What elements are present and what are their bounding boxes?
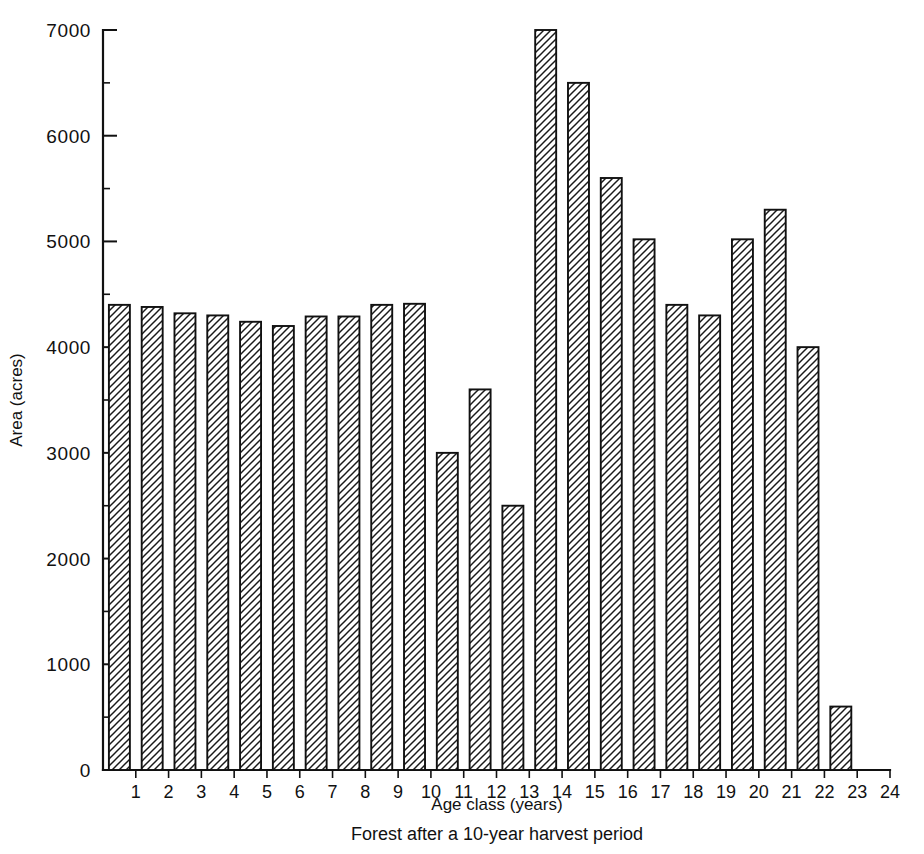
bar bbox=[240, 322, 261, 770]
x-tick-label: 4 bbox=[229, 782, 239, 802]
bar bbox=[273, 326, 294, 770]
bar bbox=[306, 316, 327, 770]
x-tick-label: 9 bbox=[393, 782, 403, 802]
bar bbox=[109, 305, 130, 770]
bar-rect bbox=[601, 178, 622, 770]
bar-rect bbox=[666, 305, 687, 770]
bar bbox=[666, 305, 687, 770]
bar-rect bbox=[174, 313, 195, 770]
bar bbox=[601, 178, 622, 770]
bar-rect bbox=[732, 239, 753, 770]
x-tick-label: 7 bbox=[328, 782, 338, 802]
bar bbox=[502, 506, 523, 770]
x-tick-label: 18 bbox=[683, 782, 703, 802]
bar bbox=[798, 347, 819, 770]
x-tick-label: 22 bbox=[814, 782, 834, 802]
x-tick-label: 6 bbox=[295, 782, 305, 802]
bar bbox=[437, 453, 458, 770]
y-tick-label: 6000 bbox=[46, 126, 91, 147]
bar bbox=[732, 239, 753, 770]
bar-rect bbox=[470, 389, 491, 770]
bar-rect bbox=[109, 305, 130, 770]
bar-chart-figure: 01000200030004000500060007000 1234567891… bbox=[0, 0, 924, 854]
y-axis-title: Area (acres) bbox=[7, 353, 26, 447]
x-tick-label: 19 bbox=[716, 782, 736, 802]
x-tick-label: 1 bbox=[131, 782, 141, 802]
bar-rect bbox=[634, 239, 655, 770]
bar-rect bbox=[830, 707, 851, 770]
x-tick-label: 24 bbox=[880, 782, 900, 802]
bar bbox=[371, 305, 392, 770]
x-tick-label: 3 bbox=[196, 782, 206, 802]
y-tick-label: 5000 bbox=[46, 231, 91, 252]
y-tick-label: 7000 bbox=[46, 20, 91, 41]
x-tick-label: 2 bbox=[164, 782, 174, 802]
y-tick-label: 0 bbox=[80, 760, 91, 781]
bar-rect bbox=[371, 305, 392, 770]
y-tick-label: 1000 bbox=[46, 654, 91, 675]
bar bbox=[338, 316, 359, 770]
bar bbox=[207, 315, 228, 770]
bar bbox=[535, 30, 556, 770]
figure-caption: Forest after a 10-year harvest period bbox=[351, 824, 643, 844]
bar bbox=[830, 707, 851, 770]
bar bbox=[404, 304, 425, 770]
bar-rect bbox=[142, 307, 163, 770]
x-tick-label: 23 bbox=[847, 782, 867, 802]
bar-rect bbox=[699, 315, 720, 770]
x-tick-label: 20 bbox=[749, 782, 769, 802]
bar-rect bbox=[568, 83, 589, 770]
bar-rect bbox=[404, 304, 425, 770]
x-tick-label: 16 bbox=[618, 782, 638, 802]
bar-rect bbox=[437, 453, 458, 770]
bar bbox=[470, 389, 491, 770]
bar-rect bbox=[338, 316, 359, 770]
bar bbox=[174, 313, 195, 770]
x-tick-label: 8 bbox=[360, 782, 370, 802]
bar-rect bbox=[765, 210, 786, 770]
chart-canvas: 01000200030004000500060007000 1234567891… bbox=[0, 0, 924, 854]
bar bbox=[699, 315, 720, 770]
y-tick-label: 2000 bbox=[46, 549, 91, 570]
bar-rect bbox=[306, 316, 327, 770]
y-tick-label: 3000 bbox=[46, 443, 91, 464]
x-axis-title: Age class (years) bbox=[431, 795, 562, 814]
bar bbox=[142, 307, 163, 770]
x-tick-label: 5 bbox=[262, 782, 272, 802]
bar-rect bbox=[798, 347, 819, 770]
x-tick-label: 15 bbox=[585, 782, 605, 802]
bar-rect bbox=[273, 326, 294, 770]
bar bbox=[765, 210, 786, 770]
bar-rect bbox=[502, 506, 523, 770]
bar-rect bbox=[535, 30, 556, 770]
x-tick-label: 21 bbox=[782, 782, 802, 802]
y-tick-label: 4000 bbox=[46, 337, 91, 358]
bar-rect bbox=[240, 322, 261, 770]
bar-rect bbox=[207, 315, 228, 770]
bar bbox=[568, 83, 589, 770]
x-tick-label: 17 bbox=[650, 782, 670, 802]
bar bbox=[634, 239, 655, 770]
